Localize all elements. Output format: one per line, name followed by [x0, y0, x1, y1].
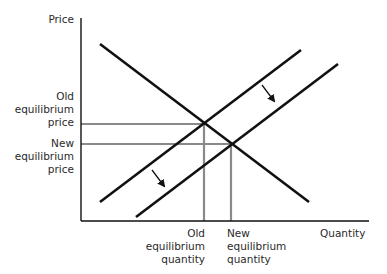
x-axis-label: Quantity: [320, 227, 365, 240]
old-equilibrium-quantity-label: Old equilibrium quantity: [146, 227, 205, 266]
new-equilibrium-price-label: New equilibrium price: [15, 137, 74, 176]
curves: [100, 44, 338, 217]
axes: [81, 18, 369, 221]
new-equilibrium-quantity-label: New equilibrium quantity: [227, 227, 286, 266]
old-supply-curve: [100, 50, 301, 202]
shift-arrows: [152, 85, 274, 186]
new-supply-curve: [136, 64, 338, 217]
shift-arrow-icon: [262, 85, 274, 101]
equilibrium-guide-lines: [81, 124, 231, 221]
y-axis-label: Price: [48, 13, 74, 26]
shift-arrow-icon: [152, 170, 164, 186]
old-equilibrium-price-label: Old equilibrium price: [15, 90, 74, 129]
